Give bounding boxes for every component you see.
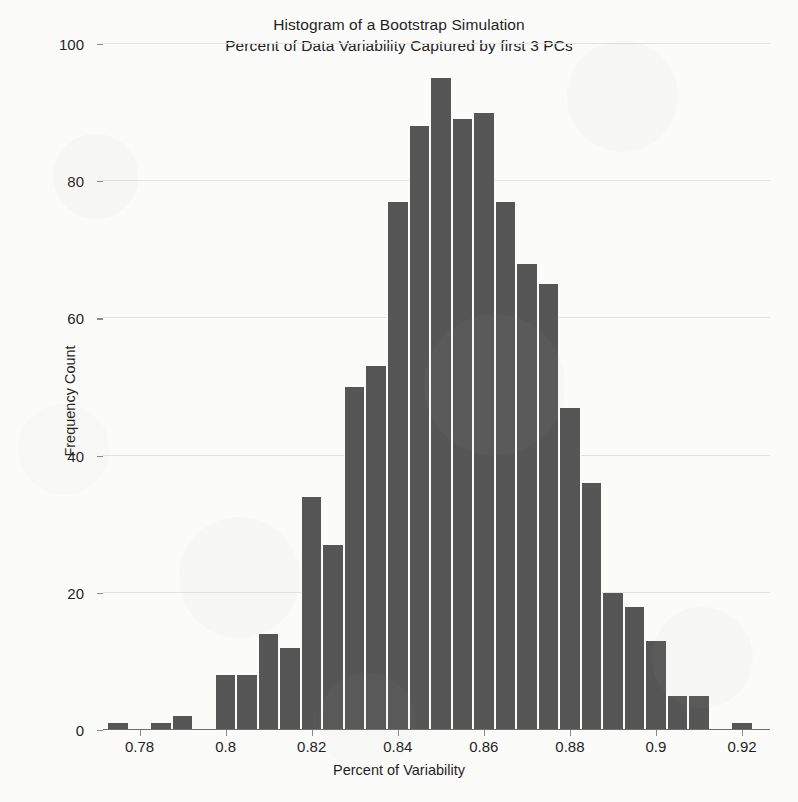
y-axis-tick-mark [97,456,103,457]
y-axis-tick-label: 20 [24,584,84,601]
histogram-bar [409,126,431,730]
x-axis-title: Percent of Variability [0,762,798,778]
histogram-bar [344,387,366,730]
x-axis-tick-mark [312,730,313,736]
x-axis-tick-mark [484,730,485,736]
y-axis-tick-label: 40 [24,447,84,464]
histogram-bar [624,607,646,730]
y-axis-tick-mark [97,593,103,594]
x-axis-tick-label: 0.78 [125,738,154,755]
x-axis-tick-label: 0.88 [555,738,584,755]
x-axis-tick-mark [656,730,657,736]
y-axis-tick-mark [97,44,103,45]
histogram-bar [387,202,409,730]
x-axis-tick-label: 0.82 [297,738,326,755]
histogram-bar [495,202,517,730]
histogram-bar [322,545,344,730]
histogram-bar [236,675,258,730]
histogram-bar [559,408,581,730]
gridline [103,43,770,44]
x-axis-tick-mark [226,730,227,736]
y-axis-title: Frequency Count [62,345,78,456]
histogram-bar [473,113,495,730]
histogram-bar [430,78,452,730]
histogram-bar [279,648,301,730]
histogram-bar [215,675,237,730]
histogram-bar [258,634,280,730]
histogram-bar [667,696,689,730]
histogram-bar [581,483,603,730]
y-axis-tick-label: 60 [24,310,84,327]
y-axis-tick-label: 100 [24,36,84,53]
histogram-bar [688,696,710,730]
y-axis-tick-label: 0 [24,722,84,739]
x-axis-tick-label: 0.84 [383,738,412,755]
histogram-bar [452,119,474,730]
x-axis-tick-mark [398,730,399,736]
x-axis-tick-label: 0.86 [469,738,498,755]
y-axis-tick-mark [97,730,103,731]
x-axis-tick-label: 0.8 [215,738,236,755]
histogram-bar [645,641,667,730]
x-axis-tick-label: 0.92 [727,738,756,755]
x-axis-tick-mark [140,730,141,736]
x-axis-tick-mark [742,730,743,736]
histogram-bar [516,264,538,730]
histogram-bar [538,284,560,730]
histogram-bar [301,497,323,730]
y-axis-tick-mark [97,181,103,182]
x-axis-line [103,729,770,731]
histogram-bar [602,593,624,730]
y-axis-tick-mark [97,318,103,319]
histogram-bar [365,366,387,730]
plot-area [103,44,770,730]
y-axis-tick-label: 80 [24,173,84,190]
x-axis-tick-label: 0.9 [646,738,667,755]
x-axis-tick-mark [570,730,571,736]
histogram-chart: Histogram of a Bootstrap Simulation Perc… [0,0,798,802]
chart-title-line1: Histogram of a Bootstrap Simulation [0,14,798,35]
